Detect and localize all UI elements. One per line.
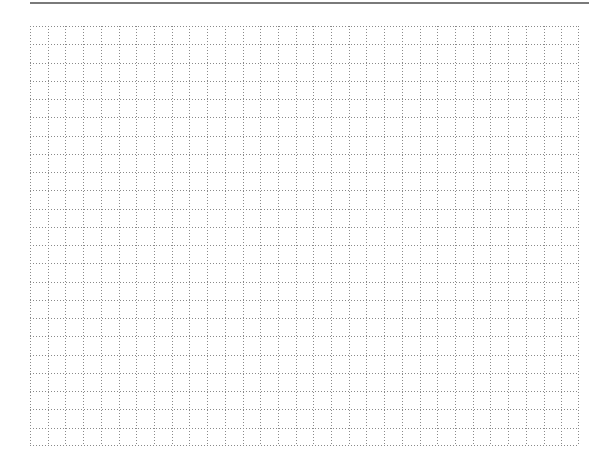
graph-paper-page (0, 0, 611, 469)
grid-lines (30, 26, 579, 446)
dotted-grid (30, 26, 579, 446)
top-rule-line (30, 2, 589, 4)
